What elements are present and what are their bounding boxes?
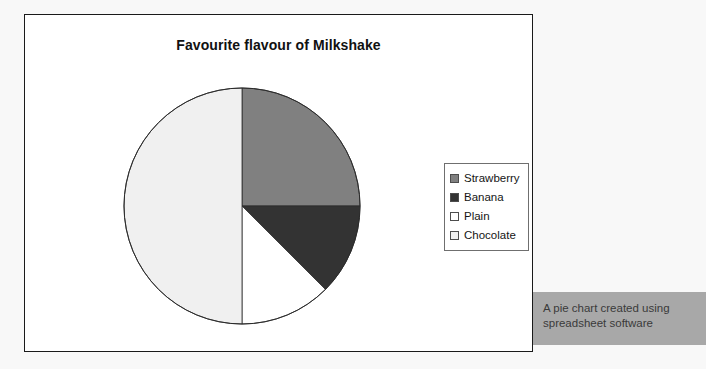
legend-item-banana[interactable]: Banana [450, 188, 523, 207]
caption-box: A pie chart created using spreadsheet so… [533, 292, 706, 345]
legend-swatch-plain [450, 212, 459, 221]
legend-swatch-strawberry [450, 174, 459, 183]
chart-legend: Strawberry Banana Plain Chocolate [444, 163, 529, 251]
chart-frame: Favourite flavour of Milkshake Strawberr… [24, 14, 533, 352]
legend-item-plain[interactable]: Plain [450, 207, 523, 226]
pie-chart [122, 86, 362, 326]
legend-item-chocolate[interactable]: Chocolate [450, 226, 523, 245]
caption-text: A pie chart created using spreadsheet so… [543, 301, 696, 331]
page-background: Favourite flavour of Milkshake Strawberr… [0, 0, 706, 369]
legend-label-chocolate: Chocolate [464, 230, 516, 242]
pie-chart-svg [122, 86, 362, 326]
legend-label-strawberry: Strawberry [464, 173, 520, 185]
pie-slice-strawberry[interactable] [242, 88, 360, 206]
pie-slice-chocolate[interactable] [124, 88, 242, 324]
legend-swatch-banana [450, 193, 459, 202]
legend-swatch-chocolate [450, 231, 459, 240]
legend-label-banana: Banana [464, 192, 504, 204]
chart-title: Favourite flavour of Milkshake [25, 37, 532, 53]
legend-item-strawberry[interactable]: Strawberry [450, 169, 523, 188]
legend-label-plain: Plain [464, 211, 490, 223]
